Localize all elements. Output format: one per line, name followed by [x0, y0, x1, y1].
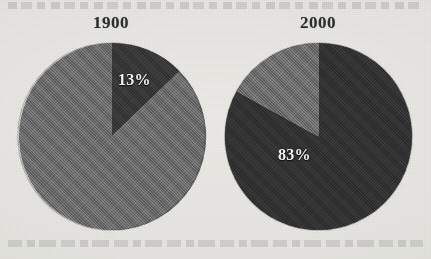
chart-title-2000: 2000 [263, 13, 373, 33]
pie-2000-svg [222, 40, 415, 233]
scanned-page: 1900 13% 2000 83% [0, 0, 431, 259]
chart-title-1900: 1900 [56, 13, 166, 33]
pie-chart-1900 [15, 40, 208, 233]
pie-1900-slice-label: 13% [118, 71, 151, 89]
pie-2000-slice-label: 83% [278, 146, 311, 164]
pie-chart-2000 [222, 40, 415, 233]
pie-1900-svg [15, 40, 208, 233]
pie-chart-figure: 1900 13% 2000 83% [0, 0, 431, 259]
